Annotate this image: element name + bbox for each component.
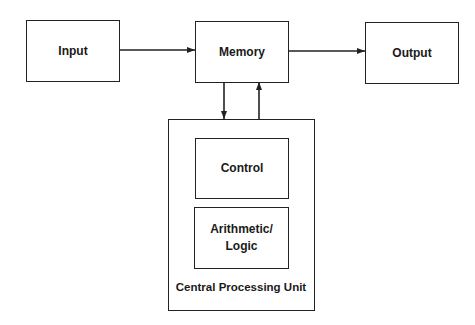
- cpu-label: Central Processing Unit: [168, 281, 314, 293]
- alu-box: Arithmetic/ Logic: [194, 207, 289, 269]
- input-box: Input: [26, 20, 120, 82]
- alu-label-line1: Arithmetic/: [210, 221, 273, 238]
- input-label: Input: [58, 43, 87, 60]
- alu-label-line2: Logic: [210, 238, 273, 255]
- memory-box: Memory: [195, 21, 289, 83]
- output-label: Output: [392, 45, 431, 62]
- memory-label: Memory: [219, 44, 265, 61]
- output-box: Output: [365, 22, 459, 84]
- control-label: Control: [221, 160, 264, 177]
- control-box: Control: [195, 138, 289, 199]
